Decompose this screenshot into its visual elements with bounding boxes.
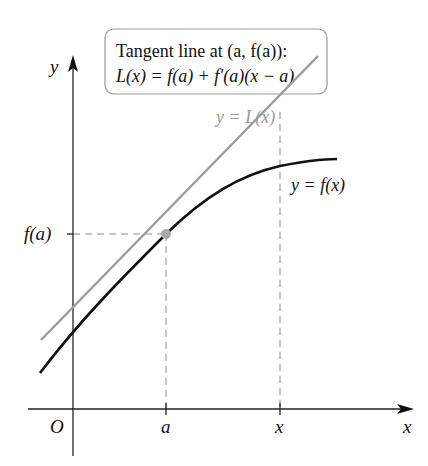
y-axis-label: y — [48, 56, 59, 77]
tangent-line — [41, 56, 318, 340]
tick-label-a: a — [161, 416, 171, 437]
tangent-line-label: y = L(x) — [214, 107, 275, 128]
x-axis-label: x — [402, 416, 412, 437]
function-curve-label: y = f(x) — [289, 175, 345, 196]
tangency-point — [161, 229, 171, 239]
tangent-line-diagram: Tangent line at (a, f(a)): L(x) = f(a) +… — [0, 0, 428, 466]
caption-line-1: Tangent line at (a, f(a)): — [116, 41, 287, 62]
caption-line-2: L(x) = f(a) + f′(a)(x − a) — [115, 66, 294, 87]
origin-label: O — [50, 416, 64, 437]
tick-label-x: x — [274, 416, 284, 437]
tick-label-fa: f(a) — [24, 223, 51, 245]
